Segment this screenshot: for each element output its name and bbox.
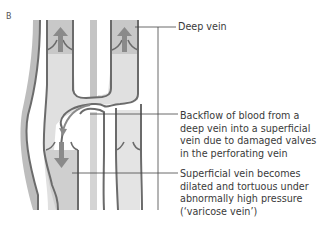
label-superficial-vein: Superficial vein becomes dilated and tor… [180, 168, 317, 218]
label-deep-vein: Deep vein [178, 21, 227, 34]
label-backflow: Backflow of blood from a deep vein into … [180, 110, 317, 160]
